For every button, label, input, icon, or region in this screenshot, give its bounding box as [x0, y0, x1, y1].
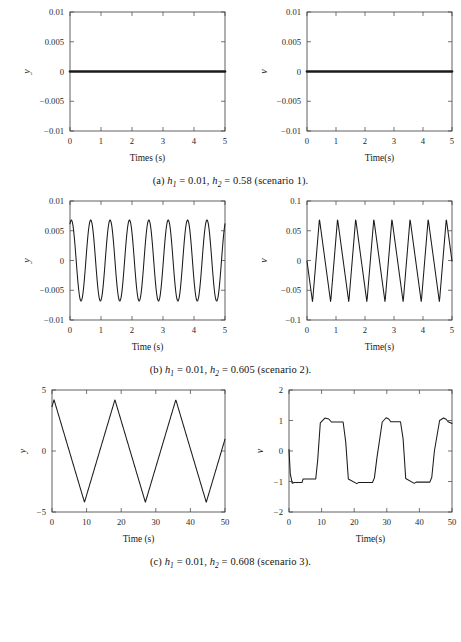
- plot-frame: [289, 390, 452, 512]
- chart-b-right-svg: 012345−0.1−0.0500.050.1Time(s)v: [255, 189, 460, 364]
- caption-c-scenario: (scenario 3).: [257, 556, 311, 567]
- plot-c-left: 01020304050−505Time (s)y: [18, 378, 233, 556]
- x-axis-title: Time(s): [356, 534, 385, 545]
- y-tick-label: 0.005: [282, 37, 301, 47]
- x-tick-label: 3: [392, 136, 396, 146]
- x-tick-label: 1: [99, 325, 103, 335]
- x-tick-label: 0: [50, 517, 54, 527]
- x-tick-label: 30: [383, 517, 392, 527]
- x-tick-label: 2: [130, 325, 134, 335]
- caption-c-comma: ,: [204, 556, 207, 567]
- caption-c-eq1: =: [177, 556, 183, 567]
- caption-a-prefix: (a): [153, 175, 165, 186]
- x-tick-label: 2: [130, 136, 134, 146]
- y-tick-label: −0.005: [40, 96, 64, 106]
- x-tick-label: 4: [421, 136, 426, 146]
- x-tick-label: 50: [221, 517, 230, 527]
- caption-b-h1-value: 0.01: [186, 364, 205, 375]
- y-tick-label: −0.005: [40, 286, 64, 296]
- plot-frame: [52, 390, 225, 512]
- x-tick-label: 10: [82, 517, 91, 527]
- y-tick-label: −0.01: [281, 126, 301, 136]
- x-tick-label: 20: [117, 517, 126, 527]
- caption-c-h2-sub: 2: [215, 561, 219, 570]
- y-tick-label: 0.05: [286, 226, 301, 236]
- x-tick-label: 4: [192, 136, 197, 146]
- y-tick-label: 0.005: [45, 226, 64, 236]
- caption-a: (a) h1 = 0.01, h2 = 0.58 (scenario 1).: [0, 175, 461, 189]
- caption-b-h2-value: 0.605: [231, 364, 255, 375]
- caption-b-h2-sub: 2: [215, 369, 219, 378]
- x-axis-title: Time(s): [365, 153, 394, 164]
- x-tick-label: 5: [223, 325, 227, 335]
- chart-b-left-svg: 012345−0.01−0.00500.0050.01Time (s)y: [18, 189, 233, 364]
- chart-a-right-svg: 012345−0.01−0.00500.0050.01Time(s)v: [255, 0, 460, 175]
- y-axis-title: y: [21, 258, 32, 264]
- y-tick-label: 0.1: [290, 196, 301, 206]
- caption-b: (b) h1 = 0.01, h2 = 0.605 (scenario 2).: [0, 364, 461, 378]
- y-axis-title: y: [21, 69, 32, 75]
- x-axis-title: Time (s): [132, 342, 164, 353]
- x-tick-label: 0: [305, 136, 309, 146]
- chart-c-right-svg: 01020304050−2−1012Time(s)v: [255, 378, 460, 556]
- y-tick-label: −2: [274, 507, 283, 517]
- y-axis-title: v: [258, 69, 269, 74]
- caption-b-prefix: (b): [150, 364, 163, 375]
- x-tick-label: 4: [192, 325, 197, 335]
- y-tick-label: −0.005: [277, 96, 301, 106]
- panel-row-a: 012345−0.01−0.00500.0050.01Times (s)y 01…: [0, 0, 461, 189]
- x-tick-label: 0: [287, 517, 291, 527]
- y-tick-label: 0: [60, 256, 64, 266]
- x-tick-label: 1: [334, 136, 338, 146]
- x-tick-label: 4: [421, 325, 426, 335]
- x-tick-label: 2: [363, 325, 367, 335]
- panel-row-b: 012345−0.01−0.00500.0050.01Time (s)y 012…: [0, 189, 461, 378]
- y-axis-title: v: [258, 258, 269, 263]
- x-axis-title: Times (s): [130, 153, 165, 164]
- caption-a-eq1: =: [179, 175, 185, 186]
- data-series-line: [289, 418, 452, 484]
- data-series-line: [307, 220, 452, 301]
- y-tick-label: −5: [37, 507, 46, 517]
- y-tick-label: −0.05: [281, 286, 301, 296]
- x-tick-label: 3: [392, 325, 396, 335]
- caption-c: (c) h1 = 0.01, h2 = 0.608 (scenario 3).: [0, 556, 461, 570]
- plot-b-left: 012345−0.01−0.00500.0050.01Time (s)y: [18, 189, 233, 364]
- x-tick-label: 0: [68, 136, 72, 146]
- y-tick-label: −1: [274, 477, 283, 487]
- caption-c-h1-sub: 1: [170, 561, 174, 570]
- y-tick-label: 0.01: [286, 7, 301, 17]
- y-tick-label: −0.1: [285, 315, 301, 325]
- y-tick-label: 2: [279, 385, 283, 395]
- y-tick-label: 5: [42, 385, 46, 395]
- plot-c-right: 01020304050−2−1012Time(s)v: [255, 378, 460, 556]
- caption-a-scenario: (scenario 1).: [255, 175, 309, 186]
- x-tick-label: 0: [305, 325, 309, 335]
- panel-row-c: 01020304050−505Time (s)y 01020304050−2−1…: [0, 378, 461, 570]
- x-tick-label: 30: [152, 517, 161, 527]
- data-series-line: [70, 220, 225, 301]
- x-tick-label: 40: [415, 517, 424, 527]
- caption-b-eq2: =: [222, 364, 228, 375]
- caption-a-eq2: =: [224, 175, 230, 186]
- chart-a-left-svg: 012345−0.01−0.00500.0050.01Times (s)y: [18, 0, 233, 175]
- x-tick-label: 3: [161, 325, 165, 335]
- x-tick-label: 50: [448, 517, 457, 527]
- caption-b-h1-sub: 1: [170, 369, 174, 378]
- x-tick-label: 2: [363, 136, 367, 146]
- caption-a-h2-sub: 2: [218, 180, 222, 189]
- x-tick-label: 5: [450, 325, 454, 335]
- x-tick-label: 1: [99, 136, 103, 146]
- caption-a-h2-value: 0.58: [233, 175, 252, 186]
- caption-c-h1-value: 0.01: [185, 556, 204, 567]
- y-tick-label: 0: [297, 67, 301, 77]
- caption-b-eq1: =: [177, 364, 183, 375]
- y-tick-label: 0.01: [49, 7, 64, 17]
- y-axis-title: y: [18, 448, 28, 454]
- y-tick-label: 0: [60, 67, 64, 77]
- y-axis-title: v: [255, 448, 265, 453]
- figure-container: 012345−0.01−0.00500.0050.01Times (s)y 01…: [0, 0, 461, 642]
- x-axis-title: Time (s): [123, 534, 155, 545]
- y-tick-label: 0: [42, 446, 46, 456]
- chart-c-left-svg: 01020304050−505Time (s)y: [18, 378, 233, 556]
